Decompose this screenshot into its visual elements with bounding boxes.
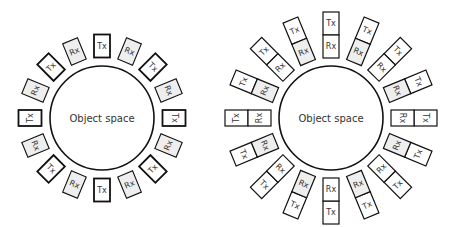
- tx-rx-module: TxRx: [391, 110, 437, 126]
- transceiver-ring-diagram: Object space TxRxTxRxTxRxTxRxTxRxTxRxTxR…: [0, 0, 453, 227]
- tx-rx-module: TxRx: [368, 37, 412, 81]
- receiver-element: Rx: [22, 134, 49, 158]
- transmitter-element: Tx: [94, 179, 110, 202]
- tx-label: Tx: [170, 112, 179, 123]
- transmitter-element: Tx: [163, 110, 186, 126]
- receiver-element: Rx: [118, 171, 142, 198]
- receiver-element: Rx: [155, 134, 182, 158]
- tx-label: Tx: [232, 113, 241, 124]
- transmitter-element: Tx: [139, 53, 167, 81]
- tx-label: Tx: [325, 208, 336, 217]
- tx-rx-module: TxRx: [368, 155, 412, 199]
- tx-label: Tx: [421, 112, 430, 123]
- rx-label: Rx: [326, 42, 337, 51]
- tx-rx-module: TxRx: [323, 12, 339, 58]
- rx-label: Rx: [398, 113, 407, 124]
- tx-label: Tx: [26, 113, 35, 124]
- receiver-element: Rx: [22, 79, 49, 103]
- object-space-label-left: Object space: [69, 113, 134, 124]
- transmitter-element: Tx: [37, 155, 65, 183]
- tx-rx-module: TxRx: [230, 70, 279, 102]
- tx-rx-module: TxRx: [283, 17, 315, 66]
- tx-rx-module: TxRx: [250, 37, 294, 81]
- transmitter-element: Tx: [19, 110, 42, 126]
- receiver-element: Rx: [63, 38, 87, 65]
- tx-rx-module: TxRx: [383, 70, 432, 102]
- transmitter-element: Tx: [94, 35, 110, 58]
- tx-label: Tx: [96, 186, 107, 195]
- receiver-element: Rx: [63, 171, 87, 198]
- receiver-element: Rx: [155, 79, 182, 103]
- tx-rx-module: TxRx: [323, 178, 339, 224]
- diagram-stage: Object space TxRxTxRxTxRxTxRxTxRxTxRxTxR…: [0, 0, 453, 227]
- tx-rx-module: TxRx: [250, 155, 294, 199]
- tx-rx-module: TxRx: [347, 17, 379, 66]
- transmitter-element: Tx: [37, 53, 65, 81]
- rx-label: Rx: [326, 185, 337, 194]
- rx-label: Rx: [255, 113, 264, 124]
- left-diagram-separate-elements: Object space TxRxTxRxTxRxTxRxTxRxTxRxTxR…: [19, 35, 186, 202]
- transmitter-element: Tx: [139, 155, 167, 183]
- tx-rx-module: TxRx: [383, 134, 432, 166]
- tx-label: Tx: [96, 42, 107, 51]
- tx-rx-module: TxRx: [225, 110, 271, 126]
- tx-rx-module: TxRx: [283, 170, 315, 219]
- tx-rx-module: TxRx: [347, 170, 379, 219]
- object-space-label-right: Object space: [298, 113, 363, 124]
- receiver-element: Rx: [118, 38, 142, 65]
- right-diagram-paired-modules: Object space TxRxTxRxTxRxTxRxTxRxTxRxTxR…: [225, 12, 437, 224]
- tx-rx-module: TxRx: [230, 134, 279, 166]
- tx-label: Tx: [325, 19, 336, 28]
